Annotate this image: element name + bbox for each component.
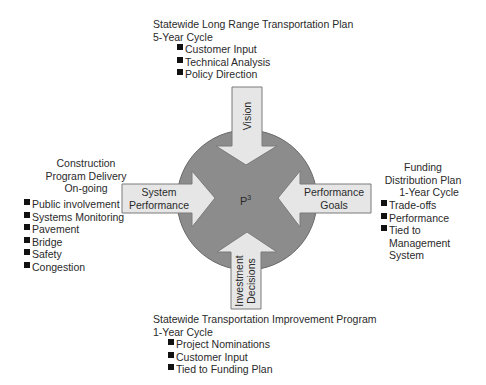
bullet-square-icon — [168, 339, 174, 345]
list-item-continuation: System — [381, 249, 450, 262]
list-item: Systems Monitoring — [24, 211, 124, 224]
bottom-block: Statewide Transportation Improvement Pro… — [153, 313, 377, 376]
list-item-text: Public involvement — [32, 198, 120, 210]
bottom-block-list: Project Nominations Customer Input Tied … — [168, 338, 377, 376]
bullet-square-icon — [24, 237, 30, 243]
bullet-square-icon — [24, 249, 30, 255]
list-item-text: Policy Direction — [185, 68, 257, 80]
system-performance-label: System Performance — [124, 186, 194, 211]
vision-label: Vision — [241, 91, 253, 141]
list-item-text: Safety — [32, 248, 62, 260]
list-item-text: Bridge — [32, 236, 62, 248]
list-item-text: Pavement — [32, 223, 79, 235]
list-item: Tied to Funding Plan — [168, 363, 377, 376]
bottom-block-title: Statewide Transportation Improvement Pro… — [153, 313, 377, 326]
right-block-title-line1: Funding — [384, 161, 462, 174]
list-item: Bridge — [24, 236, 124, 249]
investment-decisions-label: Investment Decisions — [233, 249, 259, 313]
list-item: Performance — [381, 212, 450, 225]
right-block-title-line2: Distribution Plan — [384, 174, 462, 187]
list-item-text: Trade-offs — [389, 199, 436, 211]
list-item-text: Project Nominations — [176, 338, 270, 350]
list-item-text: Technical Analysis — [185, 56, 270, 68]
system-performance-line1: System — [124, 186, 194, 199]
list-item-continuation: Management — [381, 237, 450, 250]
right-block-list: Trade-offs Performance Tied to Managemen… — [381, 199, 450, 262]
list-item-text: Customer Input — [185, 43, 257, 55]
left-block-title-line1: Construction — [44, 157, 128, 170]
right-block-title-line3: 1-Year Cycle — [384, 186, 462, 199]
list-item: Technical Analysis — [177, 56, 353, 69]
performance-goals-line2: Goals — [297, 199, 371, 212]
list-item: Policy Direction — [177, 68, 353, 81]
list-item-text: Tied to Funding Plan — [176, 363, 273, 375]
top-block-title: Statewide Long Range Transportation Plan — [153, 18, 353, 31]
list-item-text: System — [389, 249, 424, 261]
left-block-title-line3: On-going — [44, 182, 128, 195]
right-block-title: Funding Distribution Plan 1-Year Cycle — [384, 161, 462, 199]
list-item: Public involvement — [24, 198, 124, 211]
performance-goals-label: Performance Goals — [297, 186, 371, 211]
list-item-text: Systems Monitoring — [32, 211, 124, 223]
top-block-cycle: 5-Year Cycle — [153, 31, 353, 44]
left-block-list: Public involvement Systems Monitoring Pa… — [24, 198, 124, 273]
bullet-square-icon — [177, 69, 183, 75]
list-item-text: Congestion — [32, 261, 85, 273]
performance-goals-line1: Performance — [297, 186, 371, 199]
bullet-square-icon — [381, 225, 387, 231]
bullet-square-icon — [177, 44, 183, 50]
list-item-text: Management — [389, 237, 450, 249]
bullet-square-icon — [24, 224, 30, 230]
investment-decisions-line1: Investment — [233, 249, 245, 313]
list-item-text: Tied to — [389, 224, 421, 236]
top-block-list: Customer Input Technical Analysis Policy… — [177, 43, 353, 81]
bullet-square-icon — [381, 213, 387, 219]
list-item: Pavement — [24, 223, 124, 236]
system-performance-line2: Performance — [124, 199, 194, 212]
list-item: Congestion — [24, 261, 124, 274]
list-item: Project Nominations — [168, 338, 377, 351]
bullet-square-icon — [168, 364, 174, 370]
left-block-title: Construction Program Delivery On-going — [44, 157, 128, 195]
center-label-superscript: 3 — [247, 194, 251, 201]
center-label: P3 — [240, 192, 251, 207]
bottom-block-cycle: 1-Year Cycle — [153, 326, 377, 339]
bullet-square-icon — [177, 57, 183, 63]
list-item: Safety — [24, 248, 124, 261]
bullet-square-icon — [24, 212, 30, 218]
list-item-text: Performance — [389, 212, 449, 224]
list-item: Trade-offs — [381, 199, 450, 212]
list-item: Tied to — [381, 224, 450, 237]
top-block: Statewide Long Range Transportation Plan… — [153, 18, 353, 81]
list-item-text: Customer Input — [176, 351, 248, 363]
bullet-square-icon — [24, 262, 30, 268]
list-item: Customer Input — [177, 43, 353, 56]
bullet-square-icon — [168, 352, 174, 358]
investment-decisions-line2: Decisions — [245, 249, 257, 313]
bullet-square-icon — [381, 200, 387, 206]
list-item: Customer Input — [168, 351, 377, 364]
left-block-title-line2: Program Delivery — [44, 170, 128, 183]
bullet-square-icon — [24, 199, 30, 205]
